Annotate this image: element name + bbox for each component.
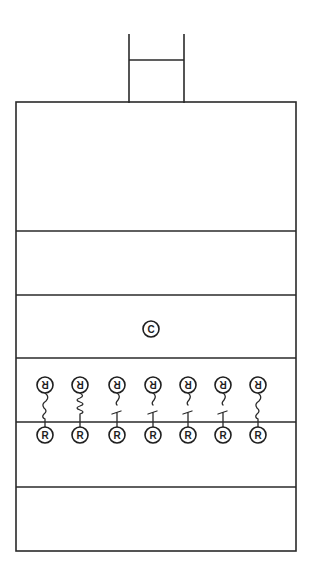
r-pair-2: RR — [72, 377, 88, 443]
r-bottom-label: R — [76, 430, 84, 441]
r-pair-1: RR — [37, 377, 53, 443]
r-bottom-label: R — [184, 430, 192, 441]
r-pair-3: RR — [109, 377, 125, 443]
r-bottom-label: R — [254, 430, 262, 441]
r-top-label-inverted: R — [113, 379, 121, 390]
r-bottom-label: R — [41, 430, 49, 441]
r-top-label-inverted: R — [184, 379, 192, 390]
r-bottom-label: R — [149, 430, 157, 441]
r-group-pairs: RRRRRRRRRRRRRR — [37, 377, 266, 443]
r-bottom-label: R — [219, 430, 227, 441]
r-pair-5: RR — [180, 377, 196, 443]
r-pair-4: RR — [145, 377, 161, 443]
r-bottom-label: R — [113, 430, 121, 441]
r-pair-7: RR — [250, 377, 266, 443]
r-top-label-inverted: R — [76, 379, 84, 390]
layered-structure-diagram: C RRRRRRRRRRRRRR — [0, 0, 313, 568]
r-top-label-inverted: R — [254, 379, 262, 390]
ladder-connector — [129, 34, 184, 103]
layer-dividers — [16, 231, 296, 487]
r-top-label-inverted: R — [149, 379, 157, 390]
r-top-label-inverted: R — [41, 379, 49, 390]
r-pair-6: RR — [215, 377, 231, 443]
c-node-label: C — [147, 324, 154, 335]
center-node-c: C — [143, 321, 159, 337]
r-top-label-inverted: R — [219, 379, 227, 390]
